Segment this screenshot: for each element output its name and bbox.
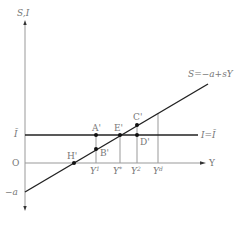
point-d-label: D' (140, 138, 150, 147)
diagram-canvas (0, 0, 243, 225)
x-axis-label: Y (209, 159, 215, 168)
tick-y2: Y2 (131, 167, 141, 176)
point-b-label: B' (100, 149, 109, 158)
point-c (135, 123, 139, 127)
investment-line-label: I=Ī (201, 131, 216, 140)
point-c-label: C' (133, 113, 142, 122)
intercept-label: −a (5, 188, 18, 197)
x-axis-arrow (200, 161, 206, 164)
tick-yd: Yd (153, 167, 163, 176)
point-a (94, 133, 98, 137)
point-d (135, 133, 139, 137)
point-e (118, 133, 122, 137)
point-e-label: E' (114, 124, 123, 133)
saving-line-label: S=−a+sY (188, 70, 233, 79)
y-axis-label: S,I (17, 9, 29, 18)
ibar-axis-label: Ī (14, 130, 18, 139)
tick-y1: Y1 (90, 167, 100, 176)
point-a-label: A' (92, 124, 101, 133)
origin-label: O (12, 159, 19, 168)
point-h-label: H' (67, 152, 77, 161)
y-axis-arrow-up (23, 20, 26, 25)
point-h (72, 161, 76, 165)
y-axis-arrow-down (23, 206, 26, 211)
tick-ystar: Y* (113, 167, 122, 176)
point-b (94, 147, 98, 151)
